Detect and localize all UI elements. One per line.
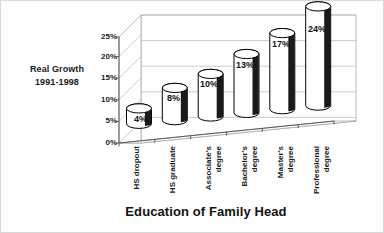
chart-figure: 0% 5% 10% 15% 20% 25% 4% 8% 10% 13% 17% …: [0, 0, 384, 233]
category-label-associates-degree: Associate's degree: [204, 146, 223, 204]
x-axis-category-labels: HS dropout HS graduate Associate's degre…: [1, 1, 384, 233]
category-label-masters-degree: Master's degree: [276, 146, 295, 204]
category-label-hs-graduate: HS graduate: [168, 146, 178, 204]
category-label-hs-dropout: HS dropout: [132, 146, 142, 204]
y-axis-title: Real Growth 1991-1998: [11, 63, 103, 89]
category-label-bachelors-degree: Bachelor's degree: [240, 146, 259, 204]
y-axis-title-line-2: 1991-1998: [11, 76, 103, 89]
category-label-professional-degree: Professional degree: [312, 146, 331, 204]
x-axis-title: Education of Family Head: [61, 204, 351, 219]
y-axis-title-line-1: Real Growth: [11, 63, 103, 76]
